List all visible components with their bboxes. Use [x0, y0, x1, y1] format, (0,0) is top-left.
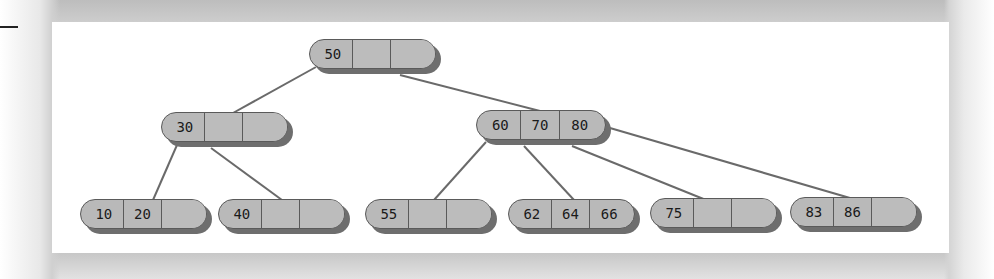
- edge-n30-leaf2: [211, 148, 282, 200]
- node-key: 64: [552, 200, 591, 228]
- tree-node-60-70-80: 60 70 80: [476, 110, 606, 140]
- edge-n60-leaf5: [572, 146, 706, 200]
- tree-node-62-64-66: 62 64 66: [508, 199, 635, 229]
- node-key: 70: [521, 111, 561, 139]
- node-key-empty: [205, 113, 244, 141]
- node-key-empty: [409, 200, 448, 228]
- edge-n60-leaf6: [610, 128, 850, 198]
- node-key-empty: [300, 200, 344, 228]
- tree-node-83-86: 83 86: [790, 197, 917, 227]
- edge-root-n60: [400, 75, 540, 111]
- edge-n30-leaf1: [153, 145, 177, 200]
- tree-node-root: 50: [309, 39, 436, 69]
- node-key: 86: [834, 198, 873, 226]
- tree-node-10-20: 10 20: [80, 199, 207, 229]
- node-key: 80: [560, 111, 605, 139]
- node-key-empty: [694, 199, 733, 227]
- node-key: 30: [162, 113, 205, 141]
- node-key: 75: [651, 199, 694, 227]
- node-key-empty: [243, 113, 287, 141]
- node-key: 50: [310, 40, 353, 68]
- node-key-empty: [353, 40, 392, 68]
- node-key-empty: [872, 198, 916, 226]
- node-key-empty: [391, 40, 435, 68]
- tree-node-30: 30: [161, 112, 288, 142]
- node-key: 60: [477, 111, 521, 139]
- tree-node-75: 75: [650, 198, 777, 228]
- tree-node-55: 55: [365, 199, 492, 229]
- node-key: 62: [509, 200, 552, 228]
- node-key: 20: [124, 200, 163, 228]
- edge-root-n30: [233, 67, 316, 113]
- node-key-empty: [162, 200, 206, 228]
- node-key: 55: [366, 200, 409, 228]
- node-key: 66: [590, 200, 634, 228]
- node-key: 83: [791, 198, 834, 226]
- node-key-empty: [262, 200, 301, 228]
- node-key-empty: [732, 199, 776, 227]
- edge-n60-leaf4: [524, 146, 574, 200]
- tree-node-40: 40: [218, 199, 345, 229]
- node-key: 10: [81, 200, 124, 228]
- edge-n60-leaf3: [434, 142, 486, 200]
- node-key: 40: [219, 200, 262, 228]
- node-key-empty: [447, 200, 491, 228]
